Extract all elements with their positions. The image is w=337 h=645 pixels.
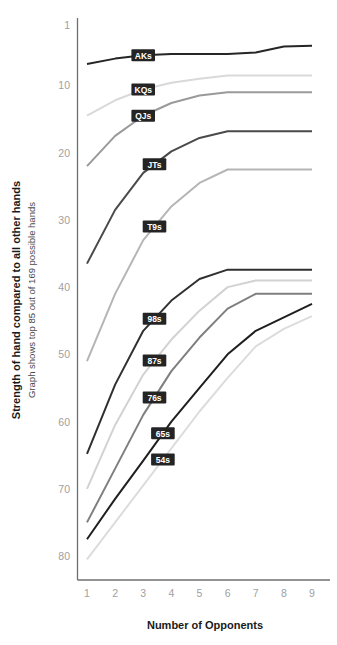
series-label-T9s: T9s [143,221,167,233]
series-label-text: 87s [147,356,161,366]
y-axis-title: Strength of hand compared to all other h… [10,181,22,419]
y-axis-subtitle: Graph shows top 85 out of 169 possible h… [26,202,37,398]
y-tick-label: 60 [58,416,70,428]
x-tick-label: 4 [168,587,174,599]
series-label-JTs: JTs [143,158,167,170]
x-axis-title: Number of Opponents [147,619,263,631]
series-label-text: JTs [147,160,161,170]
y-tick-label: 80 [58,550,70,562]
series-label-QJs: QJs [131,110,155,122]
x-tick-label: 7 [253,587,259,599]
x-tick-label: 5 [197,587,203,599]
chart-background [0,0,337,645]
series-label-text: AKs [135,51,152,61]
series-label-text: 54s [156,455,170,465]
series-label-65s: 65s [151,427,175,439]
series-label-87s: 87s [143,355,167,367]
series-label-76s: 76s [143,391,167,403]
series-label-98s: 98s [143,313,167,325]
y-tick-label: 1 [64,19,70,31]
series-label-AKs: AKs [131,49,155,61]
series-label-text: QJs [135,111,151,121]
series-label-54s: 54s [151,454,175,466]
y-tick-label: 20 [58,147,70,159]
y-tick-label: 10 [58,79,70,91]
x-tick-label: 1 [84,587,90,599]
x-tick-label: 3 [140,587,146,599]
series-label-text: 76s [147,393,161,403]
y-tick-label: 30 [58,214,70,226]
x-tick-label: 6 [225,587,231,599]
series-label-text: T9s [147,222,162,232]
y-tick-label: 50 [58,348,70,360]
series-label-KQs: KQs [131,84,155,96]
x-tick-label: 8 [281,587,287,599]
series-label-text: 98s [147,314,161,324]
series-label-text: KQs [135,85,153,95]
x-tick-label: 9 [309,587,315,599]
chart-canvas: 11020304050607080 123456789 AKsKQsQJsJTs… [0,0,337,645]
y-tick-label: 40 [58,281,70,293]
x-tick-label: 2 [112,587,118,599]
y-tick-label: 70 [58,483,70,495]
series-label-text: 65s [156,429,170,439]
